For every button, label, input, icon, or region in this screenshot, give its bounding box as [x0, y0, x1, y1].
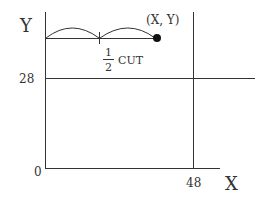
cut-diagram: Y X 0 48 28 (X, Y) 1 2 CUT — [0, 0, 262, 203]
cut-label: CUT — [118, 54, 144, 67]
point-label: (X, Y) — [146, 13, 179, 27]
y-axis-label: Y — [19, 15, 33, 36]
x-tick-label: 48 — [186, 176, 201, 190]
point-dot — [153, 34, 161, 42]
fraction-numerator: 1 — [105, 46, 112, 59]
origin-label: 0 — [34, 165, 42, 179]
x-axis-label: X — [225, 173, 238, 194]
half-cut-arc-right — [100, 28, 155, 38]
fraction-denominator: 2 — [105, 61, 112, 74]
half-cut-arc-left — [46, 28, 99, 38]
y-tick-label: 28 — [19, 72, 34, 86]
